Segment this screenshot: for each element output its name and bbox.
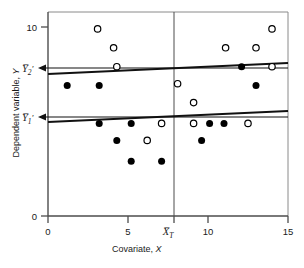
svg-text:Y̅1′: Y̅1′ [22,112,35,126]
data-point-filled [128,158,135,165]
data-point-filled [206,120,213,127]
x-tick-label-15: 15 [283,226,294,237]
data-point-open [174,81,180,87]
adjusted-mean-1-prime: ′ [32,113,35,123]
adjusted-mean-2-label: Y̅2′ [22,63,35,77]
axes [48,12,288,216]
data-point-open [269,63,275,69]
plot-frame [48,12,288,216]
y-tick-label-0: 0 [32,211,37,222]
data-point-filled [96,82,103,89]
x-axis-ticks [48,216,288,223]
covariate-mean-subscript: T [169,231,174,240]
svg-text:Y̅2′: Y̅2′ [22,63,35,77]
data-point-filled [128,120,135,127]
y-axis-title-variable: Y [11,68,21,74]
adjusted-mean-1-arrow [38,114,288,121]
adjusted-mean-2-prime: ′ [32,64,35,74]
data-point-filled [198,137,205,144]
data-point-open [245,120,251,126]
data-point-filled [158,158,165,165]
data-point-open [190,120,196,126]
data-point-filled [64,82,71,89]
data-point-open [144,137,150,143]
x-tick-label-10: 10 [203,226,214,237]
data-point-open [94,26,100,32]
x-tick-label-5: 5 [125,226,130,237]
data-point-filled [113,137,120,144]
svg-text:X̅T: X̅T [162,226,174,240]
y-tick-label-10: 10 [26,22,37,33]
y-axis-title-text: Dependent variable, [11,74,21,157]
plot-canvas: 10 0 0 5 10 15 X̅T Y̅2′ Y̅1′ [0,0,304,268]
data-point-open [110,45,116,51]
data-point-open [253,45,259,51]
scatter-plot-figure: 10 0 0 5 10 15 X̅T Y̅2′ Y̅1′ Dependent v [0,0,304,268]
data-point-open [222,45,228,51]
covariate-mean-label: X̅T [162,226,174,240]
x-tick-label-0: 0 [45,226,50,237]
data-markers [64,26,275,165]
data-point-filled [238,63,245,70]
data-point-open [114,63,120,69]
x-axis-title-text: Covariate, [112,244,156,254]
adjusted-mean-1-label: Y̅1′ [22,112,35,126]
data-point-open [158,120,164,126]
x-axis-title-variable: X [156,244,162,254]
data-point-open [190,99,196,105]
y-axis-title: Dependent variable, Y [11,53,21,173]
adjusted-mean-2-arrow [38,65,288,72]
data-point-filled [221,120,228,127]
data-point-filled [253,82,260,89]
x-axis-title: Covariate, X [112,244,162,254]
data-point-open [269,26,275,32]
tick-text-layer: 10 0 0 5 10 15 [26,22,293,238]
data-point-filled [96,120,103,127]
y-axis-ticks [41,27,48,216]
